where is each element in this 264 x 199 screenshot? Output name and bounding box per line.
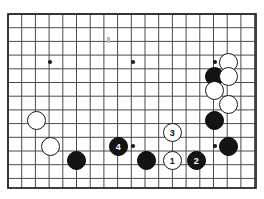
stone-white-move-1: 1	[163, 151, 182, 170]
move-number-label: 2	[188, 157, 205, 166]
stone-black-move-2: 2	[187, 151, 206, 170]
move-number-label: 4	[110, 143, 127, 152]
go-board-diagram: 4312	[0, 0, 264, 199]
stone-black	[137, 151, 156, 170]
hoshi-lower-right	[213, 144, 217, 148]
stone-black-move-4: 4	[109, 137, 128, 156]
stone-white	[219, 95, 238, 114]
move-number-label: 3	[164, 129, 181, 138]
hoshi-upper-left	[48, 60, 52, 64]
hoshi-lower-center	[131, 144, 135, 148]
faint-mark	[107, 37, 110, 43]
stone-black	[205, 111, 224, 130]
stone-white	[41, 137, 60, 156]
move-number-label: 1	[164, 157, 181, 166]
hoshi-upper-right	[213, 60, 217, 64]
stone-black	[219, 137, 238, 156]
stone-white	[27, 111, 46, 130]
stone-white	[219, 67, 238, 86]
stone-white	[205, 81, 224, 100]
hoshi-upper-center	[131, 60, 135, 64]
stone-black	[67, 151, 86, 170]
stone-white-move-3: 3	[163, 123, 182, 142]
